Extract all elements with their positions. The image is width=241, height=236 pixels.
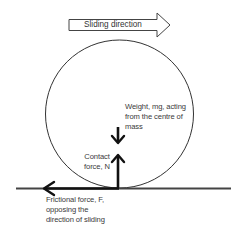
weight-label-line: mass — [125, 122, 186, 132]
friction-label-line: Frictional force, F, — [46, 195, 105, 205]
weight-arrow-icon — [112, 127, 124, 143]
contact-label-line: force, N — [84, 162, 110, 172]
friction-force-arrow-icon — [44, 182, 119, 195]
contact-force-label: Contact force, N — [84, 152, 110, 172]
contact-force-arrow-icon — [112, 155, 124, 188]
weight-label: Weight, mg, acting from the centre of ma… — [125, 102, 186, 132]
sliding-direction-label: Sliding direction — [69, 19, 157, 30]
weight-label-line: from the centre of — [125, 112, 186, 122]
sliding-ball-diagram — [0, 0, 241, 236]
friction-label-line: opposing the — [46, 205, 105, 215]
contact-label-line: Contact — [84, 152, 110, 162]
friction-force-label: Frictional force, F, opposing the direct… — [46, 195, 105, 225]
friction-label-line: direction of sliding — [46, 215, 105, 225]
weight-label-line: Weight, mg, acting — [125, 102, 186, 112]
